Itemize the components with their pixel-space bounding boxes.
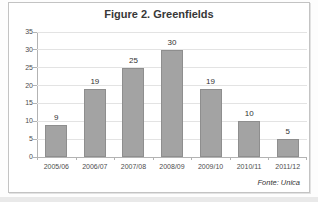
x-axis-tick-label: 2008/09 xyxy=(153,163,192,171)
y-axis-tick xyxy=(33,32,37,33)
figure-2-greenfields-chart: Figure 2. Greenfields 051015202530359200… xyxy=(8,2,310,193)
page-edge xyxy=(0,197,318,202)
x-axis-tick xyxy=(230,157,231,160)
plot-area: 0510152025303592005/06192006/07252007/08… xyxy=(37,32,307,157)
y-axis-tick-label: 20 xyxy=(11,82,33,90)
bar xyxy=(200,89,222,157)
bar-value-label: 10 xyxy=(235,109,263,118)
y-axis-tick-label: 0 xyxy=(11,153,33,161)
bar xyxy=(238,121,260,157)
y-axis-tick-label: 5 xyxy=(11,135,33,143)
bar xyxy=(122,68,144,157)
y-axis-tick-label: 15 xyxy=(11,99,33,107)
y-axis-tick xyxy=(33,139,37,140)
x-axis-tick xyxy=(306,157,307,160)
chart-title: Figure 2. Greenfields xyxy=(9,8,309,20)
x-axis-tick-label: 2011/12 xyxy=(268,163,307,171)
bar xyxy=(84,89,106,157)
y-axis-tick xyxy=(33,85,37,86)
bar-value-label: 5 xyxy=(274,127,302,136)
y-axis-tick-label: 30 xyxy=(11,46,33,54)
source-note: Fonte: Unica xyxy=(257,178,300,187)
bar xyxy=(45,125,67,157)
x-axis-tick-label: 2006/07 xyxy=(76,163,115,171)
bar-value-label: 19 xyxy=(81,77,109,86)
y-axis-tick xyxy=(33,67,37,68)
x-axis-tick xyxy=(76,157,77,160)
bar-value-label: 9 xyxy=(42,113,70,122)
x-axis-tick-label: 2007/08 xyxy=(114,163,153,171)
x-axis-tick-label: 2005/06 xyxy=(37,163,76,171)
bar-value-label: 30 xyxy=(158,38,186,47)
y-axis-tick xyxy=(33,49,37,50)
x-axis-tick xyxy=(37,157,38,160)
y-axis-tick xyxy=(33,103,37,104)
y-axis-tick-label: 25 xyxy=(11,64,33,72)
bar-value-label: 25 xyxy=(119,56,147,65)
x-axis-tick-label: 2009/10 xyxy=(191,163,230,171)
y-axis-tick-label: 10 xyxy=(11,117,33,125)
x-axis-tick xyxy=(191,157,192,160)
x-axis-line xyxy=(37,157,307,158)
bar-value-label: 19 xyxy=(197,77,225,86)
x-axis-tick-label: 2010/11 xyxy=(230,163,269,171)
bar xyxy=(161,50,183,157)
gridline xyxy=(37,32,307,33)
x-axis-tick xyxy=(268,157,269,160)
x-axis-tick xyxy=(114,157,115,160)
y-axis-tick xyxy=(33,121,37,122)
bar xyxy=(277,139,299,157)
y-axis-tick-label: 35 xyxy=(11,28,33,36)
x-axis-tick xyxy=(153,157,154,160)
